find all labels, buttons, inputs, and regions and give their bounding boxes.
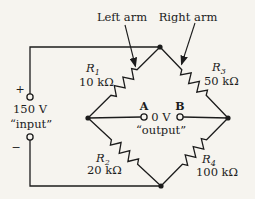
node-top bbox=[157, 44, 162, 49]
right-arm-arrow bbox=[182, 23, 196, 65]
terminal-plus bbox=[27, 94, 33, 100]
circuit-figure: Left arm Right arm + 150 V “input” − R1 … bbox=[0, 0, 255, 199]
left-arm-arrow bbox=[125, 25, 136, 67]
output-name: “output” bbox=[136, 123, 186, 137]
node-left bbox=[85, 115, 90, 120]
terminal-a bbox=[141, 114, 147, 120]
terminal-b bbox=[177, 114, 183, 120]
wire-output-left bbox=[88, 117, 141, 118]
wheatstone-bridge-diagram: Left arm Right arm + 150 V “input” − R1 … bbox=[0, 0, 255, 199]
r1-value: 10 kΩ bbox=[79, 75, 114, 89]
source-name: “input” bbox=[10, 117, 52, 131]
labels: Left arm Right arm + 150 V “input” − R1 … bbox=[10, 10, 239, 179]
r3-value: 50 kΩ bbox=[204, 74, 239, 88]
terminal-a-label: A bbox=[139, 100, 149, 113]
terminal-minus bbox=[27, 134, 33, 140]
node-right bbox=[225, 115, 230, 120]
r2-value: 20 kΩ bbox=[87, 163, 122, 177]
left-arm-label: Left arm bbox=[97, 10, 147, 24]
plus-sign: + bbox=[15, 83, 24, 96]
terminal-b-label: B bbox=[175, 100, 184, 113]
wire-output-right bbox=[183, 117, 228, 118]
output-voltage: 0 V bbox=[151, 110, 171, 124]
source-voltage: 150 V bbox=[13, 102, 48, 116]
minus-sign: − bbox=[11, 141, 20, 154]
right-arm-label: Right arm bbox=[159, 10, 218, 24]
r4-value: 100 kΩ bbox=[196, 165, 238, 179]
node-bottom bbox=[158, 183, 163, 188]
